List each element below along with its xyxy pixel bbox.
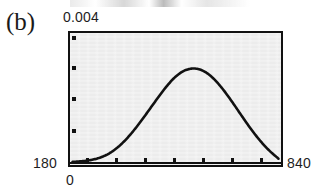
- x-axis-max-label: 840: [287, 155, 311, 171]
- density-curve: [70, 33, 281, 165]
- y-axis-max-label: 0.004: [63, 9, 99, 25]
- origin-label: 0: [66, 172, 74, 188]
- plot-area: [68, 31, 283, 167]
- figure-panel-b: (b) 0.004 180 840 0: [0, 0, 316, 195]
- panel-label: (b): [6, 9, 35, 34]
- caption-remnant: [70, 0, 250, 7]
- x-axis-min-label: 180: [33, 155, 57, 171]
- axis-baseline: [70, 162, 281, 164]
